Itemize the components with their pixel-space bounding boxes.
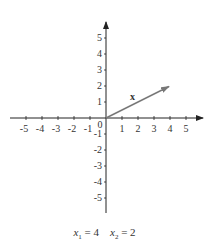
svg-text:-3: -3 bbox=[52, 123, 60, 134]
coordinate-plane: -5 -4 -3 -2 -1 1 2 3 4 5 0 5 4 3 2 1 -1 … bbox=[0, 0, 209, 246]
svg-text:2: 2 bbox=[136, 123, 141, 134]
svg-text:3: 3 bbox=[152, 123, 157, 134]
svg-text:-2: -2 bbox=[94, 144, 102, 155]
svg-text:-5: -5 bbox=[20, 123, 28, 134]
svg-text:3: 3 bbox=[97, 64, 102, 75]
caption: x1 = 4 x2 = 2 bbox=[0, 226, 209, 241]
svg-text:-5: -5 bbox=[94, 192, 102, 203]
vector-label: x bbox=[130, 91, 135, 102]
svg-text:-1: -1 bbox=[84, 123, 92, 134]
x-tick-labels: -5 -4 -3 -2 -1 1 2 3 4 5 bbox=[20, 123, 189, 134]
svg-text:5: 5 bbox=[97, 32, 102, 43]
svg-text:4: 4 bbox=[168, 123, 173, 134]
svg-text:-1: -1 bbox=[94, 128, 102, 139]
svg-text:1: 1 bbox=[97, 96, 102, 107]
x2-sub: 2 bbox=[115, 233, 119, 241]
svg-text:4: 4 bbox=[97, 48, 102, 59]
svg-text:-4: -4 bbox=[36, 123, 44, 134]
x1-sub: 1 bbox=[78, 233, 82, 241]
svg-text:2: 2 bbox=[97, 80, 102, 91]
svg-text:-2: -2 bbox=[68, 123, 76, 134]
svg-text:1: 1 bbox=[120, 123, 125, 134]
x1-value: = 4 bbox=[85, 226, 99, 238]
svg-text:-3: -3 bbox=[94, 160, 102, 171]
svg-text:-4: -4 bbox=[94, 176, 102, 187]
x2-value: = 2 bbox=[121, 226, 135, 238]
vector-x bbox=[106, 87, 169, 119]
svg-text:5: 5 bbox=[184, 123, 189, 134]
